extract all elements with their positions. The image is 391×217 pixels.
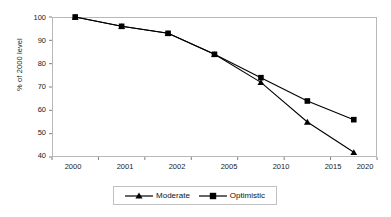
chart-legend: Moderate Optimistic [113, 186, 277, 205]
y-tick-label-80: 80 [20, 59, 46, 68]
legend-label-optimistic: Optimistic [230, 191, 265, 200]
square-marker-icon [199, 191, 227, 201]
x-tick-label-2000: 2000 [48, 162, 98, 171]
line-chart: % of 2000 level 100 90 80 70 60 50 40 20… [0, 0, 391, 217]
legend-item-moderate: Moderate [125, 191, 190, 201]
x-tick-label-2005: 2005 [204, 162, 254, 171]
x-tick-label-2002: 2002 [152, 162, 202, 171]
y-tick-label-90: 90 [20, 36, 46, 45]
y-tick-label-50: 50 [20, 128, 46, 137]
legend-item-optimistic: Optimistic [199, 191, 265, 201]
y-tick-label-40: 40 [20, 151, 46, 160]
y-tick-label-70: 70 [20, 82, 46, 91]
triangle-marker-icon [125, 191, 153, 201]
x-tick-label-2001: 2001 [100, 162, 150, 171]
plot-area [52, 17, 377, 157]
legend-label-moderate: Moderate [156, 191, 190, 200]
y-tick-label-100: 100 [20, 13, 46, 22]
y-tick-label-60: 60 [20, 105, 46, 114]
x-tick-label-2010: 2010 [256, 162, 306, 171]
x-tick-label-2020: 2020 [340, 162, 390, 171]
